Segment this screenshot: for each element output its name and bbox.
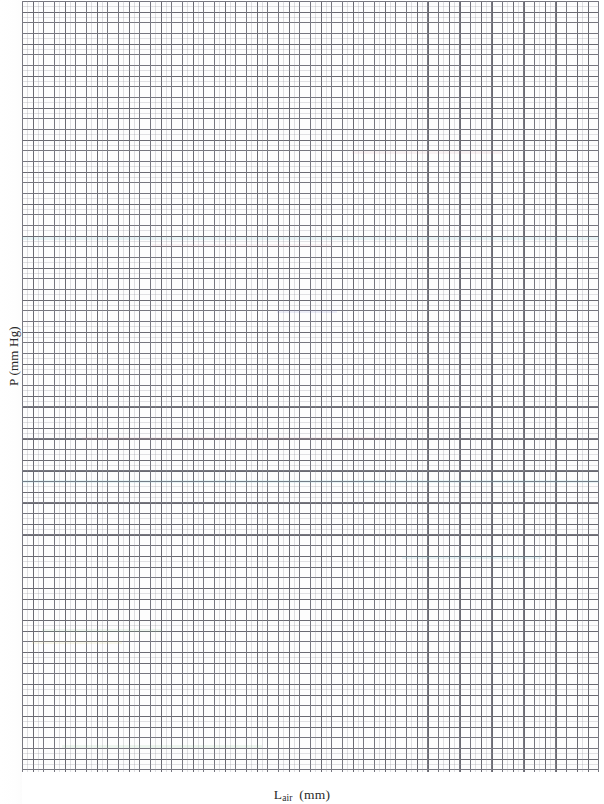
scan-tint-band [22,237,599,240]
graph-paper-grid [22,1,599,772]
scan-tint-band [32,641,122,644]
graph-paper-page: P (mm Hg) Lair(mm) [0,0,604,804]
y-axis-label: P (mm Hg) [6,316,22,396]
scan-tint-band [152,244,332,247]
x-axis-label: Lair(mm) [0,787,604,803]
scan-tint-band [42,629,162,632]
scan-tint-band [277,310,337,313]
x-axis-label-subscript: air [282,793,292,803]
y-axis-label-text: P (mm Hg) [6,326,21,386]
scan-tint-band [402,556,542,559]
x-axis-label-units: (mm) [299,787,330,802]
scan-tint-band [352,151,502,154]
scan-tint-band [82,437,382,440]
scan-tint-band [22,480,599,483]
scan-margin-shading [0,0,22,804]
scan-tint-band [62,745,262,748]
